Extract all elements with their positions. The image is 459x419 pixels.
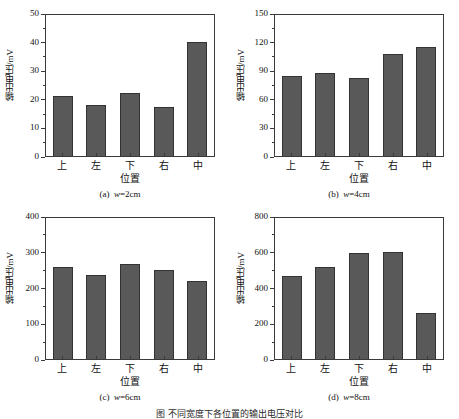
panel-d: 输出电压/mV 0200400600800 上左下右中 位置 (d) w=8cm [229,203,459,406]
x-axis-label-a-上: 上 [45,159,79,172]
figure-bottom-caption: 图 不同宽度下各位置的输出电压对比 [0,408,459,419]
panel-caption-d: (d) w=8cm [249,391,449,403]
bar-b-中 [416,47,436,156]
y-tick-label: 120 [255,37,269,48]
bar-b-上 [282,76,302,156]
x-tick-mark-c-左 [96,356,97,360]
bar-series-a [46,15,214,156]
panel-caption-a: (a) w=2cm [20,188,220,200]
x-tick-mark-c-中 [198,356,199,360]
bar-series-c [46,218,214,359]
x-tick-mark-c-上 [62,356,63,360]
bar-slot [113,218,147,359]
x-axis-title-b: 位置 [274,173,444,185]
y-axis-ticks-a: 01020304050 [0,14,45,157]
x-axis-label-c-中: 中 [181,362,215,375]
bar-slot [80,218,114,359]
panel-caption-c: (c) w=6cm [20,391,220,403]
bar-c-下 [120,264,140,359]
plot-area-c [45,217,215,360]
y-axis-ticks-c: 0100200300400 [0,217,45,360]
y-axis-ticks-b: 0306090120150 [229,14,274,157]
y-axis-ticks-d: 0200400600800 [229,217,274,360]
x-axis-label-d-下: 下 [342,362,376,375]
x-axis-label-a-右: 右 [147,159,181,172]
figure-bar-chart-panels: 输出电压/mV 01020304050 上左下右中 位置 (a) w=2cm 输… [0,0,459,419]
panel-caption-d-prefix: (d) [328,392,339,402]
x-tick-mark-a-左 [96,153,97,157]
y-tick-label: 150 [255,8,269,19]
bar-slot [309,218,343,359]
x-axis-label-c-左: 左 [79,362,113,375]
bar-slot [147,218,181,359]
x-axis-labels-c: 上左下右中 [45,362,215,375]
x-tick-mark-d-下 [359,356,360,360]
y-tick-label: 0 [264,354,269,365]
x-tick-mark-d-左 [325,356,326,360]
x-tick-mark-c-右 [164,356,165,360]
x-axis-labels-d: 上左下右中 [274,362,444,375]
panel-caption-b-prefix: (b) [328,189,339,199]
x-tick-mark-d-右 [393,356,394,360]
panel-b: 输出电压/mV 0306090120150 上左下右中 位置 (b) w=4cm [229,0,459,203]
x-axis-title-c: 位置 [45,376,215,388]
x-axis-label-b-上: 上 [274,159,308,172]
x-axis-label-a-左: 左 [79,159,113,172]
x-axis-label-d-上: 上 [274,362,308,375]
y-tick-label: 200 [26,283,40,294]
bar-slot [180,15,214,156]
plot-area-d [274,217,444,360]
panel-c: 输出电压/mV 0100200300400 上左下右中 位置 (c) w=6cm [0,203,229,406]
x-axis-label-d-中: 中 [410,362,444,375]
y-tick-label: 600 [255,247,269,258]
x-tick-mark-d-上 [291,356,292,360]
plot-area-a [45,14,215,157]
panel-caption-a-suffix: =2cm [120,189,141,199]
bar-slot [409,218,443,359]
y-tick-label: 0 [264,151,269,162]
bar-slot [180,218,214,359]
bar-a-中 [187,42,207,156]
x-axis-labels-a: 上左下右中 [45,159,215,172]
bar-c-中 [187,281,207,359]
x-axis-label-a-下: 下 [113,159,147,172]
x-axis-labels-b: 上左下右中 [274,159,444,172]
x-tick-mark-d-中 [427,356,428,360]
panel-grid: 输出电压/mV 01020304050 上左下右中 位置 (a) w=2cm 输… [0,0,459,406]
bar-b-下 [349,78,369,156]
x-tick-mark-a-上 [62,153,63,157]
y-tick-label: 60 [259,94,268,105]
bar-b-右 [383,54,403,156]
bar-a-下 [120,93,140,156]
bar-slot [376,15,410,156]
x-axis-label-c-上: 上 [45,362,79,375]
y-tick-label: 400 [255,283,269,294]
bar-c-右 [154,270,174,359]
bar-b-左 [315,73,335,156]
x-axis-label-d-右: 右 [376,362,410,375]
y-tick-label: 10 [30,122,39,133]
x-axis-label-b-左: 左 [308,159,342,172]
x-tick-mark-a-中 [198,153,199,157]
panel-caption-a-prefix: (a) [99,189,109,199]
bar-slot [309,15,343,156]
x-axis-label-a-中: 中 [181,159,215,172]
x-axis-label-c-下: 下 [113,362,147,375]
x-tick-mark-b-上 [291,153,292,157]
bar-slot [147,15,181,156]
y-tick-label: 40 [30,37,39,48]
y-tick-label: 90 [259,65,268,76]
x-axis-label-b-下: 下 [342,159,376,172]
plot-area-b [274,14,444,157]
y-tick-label: 30 [30,65,39,76]
bar-a-右 [154,107,174,156]
y-tick-label: 200 [255,318,269,329]
bar-slot [46,15,80,156]
bar-slot [80,15,114,156]
y-tick-label: 300 [26,247,40,258]
x-tick-mark-b-右 [393,153,394,157]
panel-caption-c-prefix: (c) [99,392,109,402]
y-tick-label: 0 [35,151,40,162]
x-tick-mark-b-中 [427,153,428,157]
y-tick-label: 800 [255,211,269,222]
